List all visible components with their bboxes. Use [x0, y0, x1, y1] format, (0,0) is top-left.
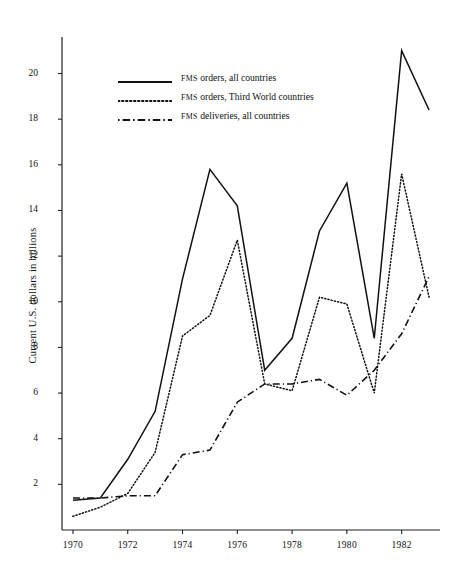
y-tick-label-12: 12 [12, 250, 38, 260]
y-tick-label-20: 20 [12, 68, 38, 78]
legend-rest-1: orders, Third World countries [198, 91, 314, 102]
x-tick-label-1976: 1976 [215, 540, 259, 550]
x-tick-label-1978: 1978 [270, 540, 314, 550]
x-tick-label-1970: 1970 [51, 540, 95, 550]
y-tick-label-16: 16 [12, 159, 38, 169]
legend-label-1: FMS orders, Third World countries [181, 91, 314, 102]
y-tick-label-8: 8 [12, 341, 38, 351]
legend-smallcaps-0: FMS [181, 74, 198, 83]
legend-key-solid [118, 73, 172, 83]
y-tick-label-14: 14 [12, 204, 38, 214]
legend-item-fms-orders-all-countries: FMS orders, all countries [118, 68, 314, 87]
figure-container: Current U.S. dollars in billions 2468101… [0, 0, 450, 571]
legend-label-2: FMS deliveries, all countries [181, 110, 289, 121]
legend-key-dash-dot [118, 111, 172, 121]
legend-key-dotted [118, 92, 172, 102]
legend-item-fms-deliveries-all-countries: FMS deliveries, all countries [118, 106, 314, 125]
x-tick-label-1974: 1974 [161, 540, 205, 550]
y-tick-label-4: 4 [12, 433, 38, 443]
series-line-fms-orders-third-world-countries [73, 174, 429, 516]
x-tick-label-1982: 1982 [380, 540, 424, 550]
y-tick-label-10: 10 [12, 296, 38, 306]
legend-rest-0: orders, all countries [198, 72, 276, 83]
legend-rest-2: deliveries, all countries [198, 110, 290, 121]
legend-smallcaps-1: FMS [181, 93, 198, 102]
y-tick-labels: 2468101214161820 [10, 0, 38, 571]
x-tick-label-1980: 1980 [325, 540, 369, 550]
chart-legend: FMS orders, all countries FMS orders, Th… [118, 68, 314, 125]
y-tick-label-6: 6 [12, 387, 38, 397]
y-tick-label-18: 18 [12, 113, 38, 123]
y-tick-label-2: 2 [12, 478, 38, 488]
legend-label-0: FMS orders, all countries [181, 72, 276, 83]
legend-smallcaps-2: FMS [181, 112, 198, 121]
x-tick-label-1972: 1972 [106, 540, 150, 550]
legend-item-fms-orders-third-world-countries: FMS orders, Third World countries [118, 87, 314, 106]
